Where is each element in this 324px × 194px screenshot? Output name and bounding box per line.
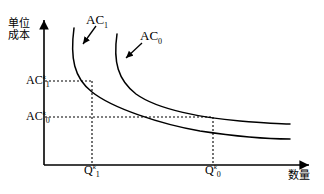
cost-curve-diagram: 单位 成本 数量 AC1 AC0 ACk1 ACk0 Qk1 Qk0 [0,0,324,194]
x-tick-q0k-sub: 0 [217,170,221,179]
y-tick-ac0k-base: AC [26,109,43,123]
y-tick-ac1k-base: AC [26,73,43,87]
curve-label-ac1-base: AC [86,12,104,27]
y-axis-title-line2: 成本 [8,30,30,42]
curve-label-ac0: AC0 [140,29,162,46]
curve-label-ac1-sub: 1 [104,21,108,30]
x-tick-label-q0k: Qk0 [205,164,221,180]
x-axis-title: 数量 [288,170,310,182]
curve-label-ac1: AC1 [86,13,108,30]
y-axis-title: 单位 成本 [8,18,30,41]
y-tick-ac1k-sub: 1 [46,80,50,89]
y-tick-label-ac1k: ACk1 [26,74,50,90]
x-tick-q0k-base: Q [205,163,214,177]
reference-lines [45,81,213,164]
y-tick-label-ac0k: ACk0 [26,110,50,126]
x-tick-q1k-sub: 1 [96,170,100,179]
x-tick-q1k-base: Q [84,163,93,177]
x-tick-label-q1k: Qk1 [84,164,100,180]
curve-label-ac0-base: AC [140,28,158,43]
y-tick-ac0k-sub: 0 [46,116,50,125]
curve-label-ac0-sub: 0 [158,37,162,46]
curve-ac0 [116,34,290,124]
axis-lines [44,20,309,165]
y-axis-title-line1: 单位 [8,18,30,30]
